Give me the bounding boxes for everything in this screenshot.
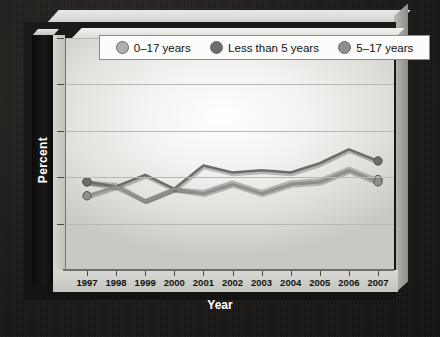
x-tick-mark <box>291 271 292 276</box>
x-tick-mark <box>233 271 234 276</box>
y-tick-mark <box>57 224 64 225</box>
legend-marker-icon <box>338 41 351 54</box>
x-tick-mark <box>320 271 321 276</box>
x-tick-mark <box>203 271 204 276</box>
series-endpoint-marker <box>374 178 382 186</box>
x-axis-title: Year <box>0 298 440 312</box>
x-tick-mark <box>145 271 146 276</box>
legend-marker-icon <box>116 41 129 54</box>
y-tick-mark <box>57 38 64 39</box>
plot-area <box>65 38 394 270</box>
legend-item[interactable]: 0–17 years <box>116 41 191 54</box>
y-tick-mark <box>57 131 64 132</box>
gridline <box>65 84 394 85</box>
y-axis-title-text: Percent <box>36 137 50 183</box>
y-tick-mark <box>57 84 64 85</box>
series-endpoint-marker <box>83 178 91 186</box>
x-tick-label: 2007 <box>361 277 395 288</box>
legend-label: Less than 5 years <box>228 42 319 54</box>
chart-legend[interactable]: 0–17 yearsLess than 5 years5–17 years <box>99 35 430 60</box>
legend-item[interactable]: 5–17 years <box>338 41 413 54</box>
x-tick-mark <box>174 271 175 276</box>
gridline <box>65 224 394 225</box>
x-axis-line <box>63 269 394 271</box>
series-endpoint-marker <box>83 192 91 200</box>
series-endpoint-marker <box>374 157 382 165</box>
legend-label: 0–17 years <box>134 42 191 54</box>
x-tick-mark <box>349 271 350 276</box>
legend-item[interactable]: Less than 5 years <box>210 41 319 54</box>
gridline <box>65 177 394 178</box>
y-tick-strip <box>53 35 65 285</box>
y-tick-mark <box>57 177 64 178</box>
series-canvas <box>65 38 394 270</box>
chart-3d-slab: 0246810 Percent 199719981999200020012002… <box>24 10 418 310</box>
x-tick-mark <box>116 271 117 276</box>
x-tick-mark <box>378 271 379 276</box>
x-tick-mark <box>262 271 263 276</box>
gridline <box>65 131 394 132</box>
y-axis-title: Percent <box>32 35 53 285</box>
legend-marker-icon <box>210 41 223 54</box>
x-tick-mark <box>87 271 88 276</box>
legend-label: 5–17 years <box>356 42 413 54</box>
